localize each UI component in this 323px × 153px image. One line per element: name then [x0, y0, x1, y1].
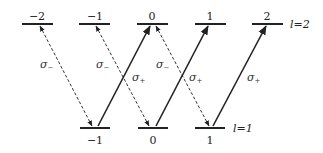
- label-sigma-plus-3: σ+: [247, 71, 261, 85]
- upper-level-labels: −2 −1 0 1 2 l=2: [29, 10, 310, 31]
- label-sigma-plus-2: σ+: [189, 71, 203, 85]
- label-l2-m-2: −2: [29, 10, 45, 23]
- label-l2-m1: 1: [207, 10, 214, 23]
- arrow-sigma-plus-3: [213, 26, 266, 126]
- lower-level-labels: −1 0 1 l=1: [87, 122, 253, 147]
- transition-diagram: −2 −1 0 1 2 l=2 −1 0 1 l=1 σ− σ− σ− σ+ σ…: [0, 0, 323, 153]
- label-l1-m0: 0: [150, 134, 157, 147]
- arrow-sigma-plus-1: [98, 26, 150, 126]
- label-l1-m1: 1: [207, 134, 214, 147]
- manifold-label-l1: l=1: [233, 122, 253, 135]
- label-l2-m0: 0: [149, 10, 156, 23]
- arrow-sigma-minus-1: [40, 26, 92, 126]
- label-l2-m-1: −1: [87, 10, 103, 23]
- transition-labels: σ− σ− σ− σ+ σ+ σ+: [40, 58, 261, 85]
- label-sigma-minus-3: σ−: [156, 58, 170, 72]
- label-l1-m-1: −1: [87, 134, 103, 147]
- label-sigma-minus-2: σ−: [96, 58, 110, 72]
- sigma-plus-transitions: [98, 26, 266, 126]
- arrow-sigma-minus-2: [96, 26, 149, 126]
- label-l2-m2: 2: [264, 10, 271, 23]
- label-sigma-minus-1: σ−: [40, 58, 54, 72]
- manifold-label-l2: l=2: [290, 18, 310, 31]
- label-sigma-plus-1: σ+: [132, 71, 146, 85]
